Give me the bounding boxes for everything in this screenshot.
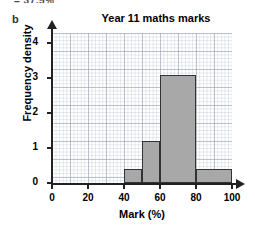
x-tick-label: 0 [39,192,65,203]
x-tick-label: 100 [219,192,245,203]
y-tick-mark [47,77,53,79]
y-tick-mark [47,147,53,149]
plot-area [52,33,232,183]
x-tick-mark [195,183,197,189]
y-axis-arrow-icon [47,20,57,29]
x-tick-label: 80 [183,192,209,203]
x-tick-mark [231,183,233,189]
y-tick-label: 1 [22,141,38,152]
x-tick-mark [87,183,89,189]
histogram-bar [160,75,196,183]
histogram-bar [196,169,232,183]
part-label: b [12,13,19,25]
x-tick-mark [159,183,161,189]
histogram-bar [124,169,142,183]
bars-layer [52,33,232,183]
x-tick-label: 20 [75,192,101,203]
x-axis-title: Mark (%) [52,208,232,220]
x-tick-label: 60 [147,192,173,203]
x-tick-mark [123,183,125,189]
y-tick-mark [47,112,53,114]
x-tick-mark [51,183,53,189]
y-axis-title: Frequency density [21,8,33,138]
y-axis-line [51,27,53,185]
chart-figure: b Year 11 maths marks 01234 020406080100… [0,0,255,231]
histogram-bar [142,141,160,183]
x-tick-label: 40 [111,192,137,203]
x-axis-line [51,183,238,185]
chart-title: Year 11 maths marks [66,12,246,24]
y-tick-mark [47,42,53,44]
y-tick-label: 0 [22,176,38,187]
x-axis-arrow-icon [236,179,245,189]
